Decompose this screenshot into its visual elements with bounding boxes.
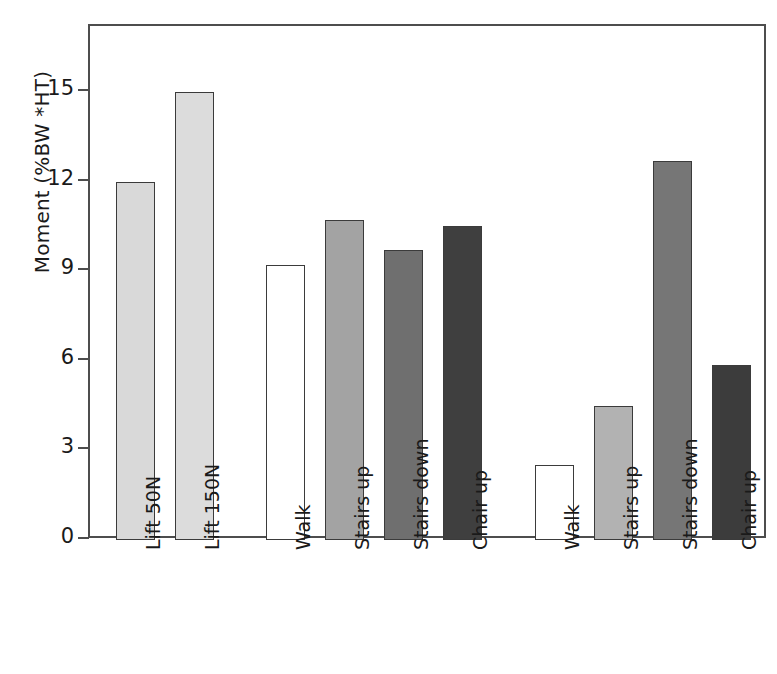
bar-chart-figure: Moment (%BW *HT) 15129630 HipKnee Lift 5… <box>0 0 777 674</box>
x-axis-category-label: Stairs up <box>351 466 373 550</box>
y-axis-tick-label: 12 <box>14 168 74 189</box>
x-axis-category-label: Stairs up <box>620 466 642 550</box>
x-axis-category-label: Stairs down <box>410 439 432 550</box>
y-axis-tick-label: 3 <box>14 436 74 457</box>
x-axis-category-label: Lift 50N <box>142 476 164 550</box>
x-axis-category-label: Lift 150N <box>201 464 223 550</box>
bar <box>266 265 305 540</box>
x-axis-category-label: Chair up <box>469 470 491 550</box>
x-axis-category-label: Walk <box>561 505 583 551</box>
y-axis-tick-label: 0 <box>14 526 74 547</box>
y-axis-tick-label: 6 <box>14 347 74 368</box>
y-axis-tick-label: 15 <box>14 78 74 99</box>
x-axis-category-label: Stairs down <box>679 439 701 550</box>
y-axis-tick-label: 9 <box>14 257 74 278</box>
x-axis-category-label: Walk <box>292 505 314 551</box>
x-axis-category-label: Chair up <box>738 470 760 550</box>
